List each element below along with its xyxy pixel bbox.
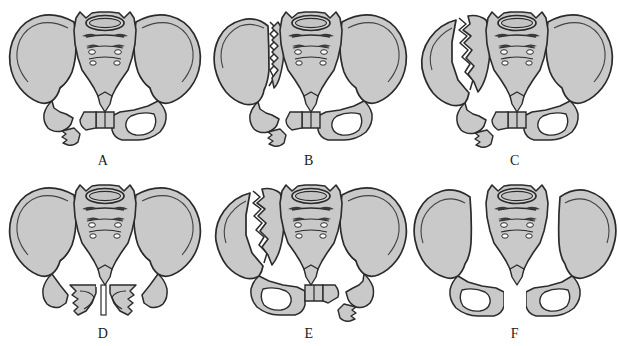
panel-b-label: B	[206, 153, 412, 169]
panel-a-illustration	[0, 0, 206, 150]
symphysis-diastasis-gap	[504, 286, 526, 318]
left-pubic-rami-fractured	[44, 101, 80, 145]
symphysis-separation	[101, 285, 106, 315]
panel-e-label: E	[206, 326, 412, 342]
symphysis-pubis	[305, 285, 339, 303]
sacrum	[280, 12, 342, 112]
left-pubic-rami-fractured	[457, 103, 493, 147]
panel-b-illustration	[206, 0, 412, 150]
left-iliac-wing	[10, 15, 76, 103]
right-obturator-ring	[318, 101, 372, 140]
panel-c: C	[412, 0, 618, 173]
left-iliac-wing	[10, 188, 76, 276]
sacrum	[280, 185, 342, 285]
panel-c-illustration	[412, 0, 618, 150]
symphysis-pubis	[80, 112, 114, 130]
left-si-joint-gap	[476, 193, 482, 265]
left-pubic-body-open	[70, 285, 96, 315]
panel-e-illustration	[206, 173, 412, 323]
right-obturator-ring	[524, 101, 578, 140]
left-obturator-ring	[251, 276, 305, 315]
left-rami-fragment	[43, 274, 68, 308]
panel-b: B	[206, 0, 412, 173]
sacrum	[486, 185, 548, 285]
left-pubic-rami-fractured	[250, 102, 286, 146]
right-rami-fragment	[142, 274, 167, 308]
panel-d-illustration	[0, 173, 206, 323]
panel-a-label: A	[0, 153, 206, 169]
panel-f-illustration	[412, 173, 618, 323]
right-iliac-wing	[134, 15, 200, 103]
right-iliac-wing	[546, 15, 612, 103]
panel-e: E	[206, 173, 412, 346]
panel-c-label: C	[412, 153, 618, 169]
panel-d-label: D	[0, 326, 206, 342]
panel-f-label: F	[412, 326, 618, 342]
right-pubic-rami-fractured	[338, 274, 374, 321]
panel-a: A	[0, 0, 206, 173]
symphysis-pubis	[286, 112, 320, 130]
left-iliac-wing-fractured	[214, 19, 269, 105]
panel-f: F	[412, 173, 618, 346]
pelvic-fracture-figure: A	[0, 0, 618, 346]
right-iliac-wing	[340, 15, 406, 103]
symphysis-pubis	[492, 112, 526, 130]
right-iliac-wing	[134, 188, 200, 276]
right-pubic-body-open	[110, 285, 136, 315]
right-iliac-wing	[340, 188, 406, 276]
sacrum	[74, 12, 136, 112]
sacrum	[74, 185, 136, 285]
right-obturator-ring	[112, 101, 166, 140]
panel-d: D	[0, 173, 206, 346]
right-si-joint-gap	[548, 193, 554, 265]
sacrum	[486, 12, 548, 112]
